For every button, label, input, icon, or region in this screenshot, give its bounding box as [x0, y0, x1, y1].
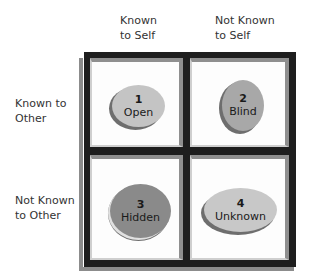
frame-shadow-bottom: [80, 267, 294, 271]
row-header-line2: Other: [15, 111, 66, 126]
row-header-line2: to Other: [15, 208, 75, 223]
row-header-known-to-other: Known to Other: [15, 96, 66, 126]
oval-open: 1 Open: [112, 85, 165, 127]
frame-shadow-left: [79, 58, 83, 271]
quadrant-number: 2: [239, 92, 247, 105]
row-header-not-known-to-other: Not Known to Other: [15, 193, 75, 223]
oval-blind: 2 Blind: [222, 80, 264, 131]
column-header-line1: Not Known: [215, 13, 275, 28]
quadrant-name: Open: [124, 106, 153, 120]
column-header-line2: to Self: [215, 28, 275, 43]
column-header-line2: to Self: [120, 28, 157, 43]
quadrant-number: 1: [135, 93, 143, 106]
quadrant-name: Blind: [229, 105, 257, 119]
column-header-not-known-to-self: Not Known to Self: [215, 13, 275, 43]
row-header-line1: Known to: [15, 96, 66, 111]
quadrant-name: Hidden: [121, 211, 160, 225]
quadrant-number: 4: [237, 197, 245, 210]
column-header-known-to-self: Known to Self: [120, 13, 157, 43]
oval-unknown: 4 Unknown: [204, 188, 277, 232]
column-header-line1: Known: [120, 13, 157, 28]
quadrant-name: Unknown: [215, 210, 266, 224]
row-header-line1: Not Known: [15, 193, 75, 208]
quadrant-number: 3: [137, 198, 145, 211]
oval-hidden: 3 Hidden: [110, 184, 171, 238]
